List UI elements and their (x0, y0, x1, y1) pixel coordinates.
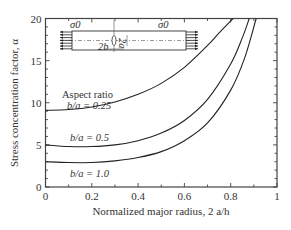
label-ba-025: b/a = 0.25 (67, 100, 111, 111)
height-2a-label: 2a (117, 38, 128, 49)
label-ba-05: b/a = 0.5 (70, 132, 109, 143)
y-tick-label: 20 (31, 13, 43, 25)
label-ba-10: b/a = 1.0 (70, 168, 110, 179)
inset-plate-diagram: σ0 σ0 2b 2a (60, 19, 198, 52)
elliptical-hole (112, 36, 116, 46)
x-tick-label: 1 (274, 190, 280, 202)
x-tick-label: 0.4 (131, 190, 145, 202)
x-tick-label: 0.2 (85, 190, 99, 202)
chart-svg: 00.20.40.60.8105101520 σ0 σ0 2b 2a Aspec… (0, 0, 291, 230)
x-tick-label: 0 (43, 190, 49, 202)
left-tension-arrows (60, 31, 72, 50)
sigma-right-label: σ0 (158, 19, 169, 30)
x-tick-label: 0.8 (224, 190, 238, 202)
aspect-ratio-heading: Aspect ratio (62, 89, 113, 100)
x-tick-label: 0.6 (178, 190, 192, 202)
y-axis-label: Stress concentration factor, α (8, 39, 20, 167)
y-tick-label: 5 (36, 139, 42, 151)
width-2b-label: 2b (98, 41, 109, 52)
y-tick-label: 0 (36, 181, 42, 193)
y-tick-label: 15 (31, 55, 43, 67)
y-tick-label: 10 (31, 97, 43, 109)
x-axis-label: Normalized major radius, 2 a/h (92, 205, 230, 217)
right-tension-arrows (186, 31, 198, 50)
sigma-left-label: σ0 (70, 19, 81, 30)
